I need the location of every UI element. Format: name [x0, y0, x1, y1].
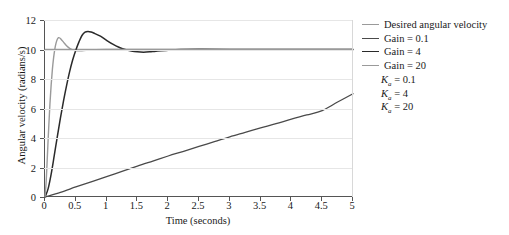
chart-figure: 024681012 00.511.522.533.544.55 Time (se… — [0, 0, 509, 235]
legend-swatch-icon — [362, 38, 379, 39]
y-axis-title: Angular velocity (radians/s) — [16, 16, 27, 196]
legend: Desired angular velocityGain = 0.1Gain =… — [362, 18, 508, 72]
legend-item[interactable]: Gain = 20 — [362, 59, 508, 73]
gridline-y — [44, 138, 352, 139]
gain-annotation: Ka = 4 — [381, 88, 416, 102]
legend-item[interactable]: Gain = 4 — [362, 45, 508, 59]
series-line-2 — [45, 31, 353, 197]
gridline-y — [44, 79, 352, 80]
legend-swatch-icon — [362, 24, 379, 25]
x-tick-label: 4 — [288, 200, 293, 211]
x-tick-label: 0 — [41, 200, 46, 211]
legend-item[interactable]: Desired angular velocity — [362, 18, 508, 32]
legend-label: Gain = 4 — [384, 46, 421, 57]
y-tick — [40, 109, 44, 110]
gridline-y — [44, 50, 352, 51]
x-tick-label: 4.5 — [315, 200, 328, 211]
series-line-3 — [45, 38, 353, 197]
legend-item[interactable]: Gain = 0.1 — [362, 32, 508, 46]
x-tick-label: 3.5 — [253, 200, 266, 211]
legend-swatch-icon — [362, 51, 379, 52]
legend-swatch-icon — [362, 65, 379, 66]
x-tick-label: 2 — [165, 200, 170, 211]
gridline-y — [44, 109, 352, 110]
x-tick-label: 1.5 — [130, 200, 143, 211]
legend-label: Desired angular velocity — [384, 19, 487, 30]
plot-frame-right — [352, 20, 353, 197]
x-tick-label: 0.5 — [68, 200, 81, 211]
x-axis-title: Time (seconds) — [44, 215, 352, 226]
x-tick-label: 3 — [226, 200, 231, 211]
gain-annotation: Ka = 20 — [381, 101, 416, 115]
legend-label: Gain = 0.1 — [384, 33, 429, 44]
legend-label: Gain = 20 — [384, 60, 426, 71]
y-tick — [40, 168, 44, 169]
gridline-y — [44, 20, 352, 21]
x-tick-label: 1 — [103, 200, 108, 211]
x-tick-label: 5 — [349, 200, 354, 211]
y-tick — [40, 20, 44, 21]
gridline-y — [44, 168, 352, 169]
y-tick — [40, 50, 44, 51]
gain-annotations: Ka = 0.1Ka = 4Ka = 20 — [381, 74, 416, 115]
y-tick — [40, 138, 44, 139]
y-tick — [40, 79, 44, 80]
gain-annotation: Ka = 0.1 — [381, 74, 416, 88]
x-tick-label: 2.5 — [191, 200, 204, 211]
